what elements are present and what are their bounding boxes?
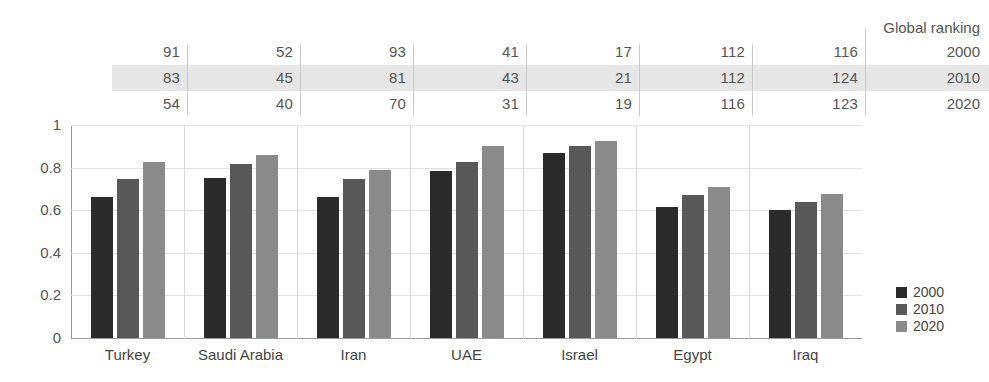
rank-cell: 40 <box>233 91 293 117</box>
legend-item: 2000 <box>896 283 986 300</box>
y-axis-tick-label: 0.8 <box>13 159 61 176</box>
bar <box>656 207 678 338</box>
legend-swatch-icon <box>896 321 907 332</box>
table-row-label: 2000 <box>870 39 980 65</box>
bar <box>317 197 339 338</box>
bar <box>369 170 391 338</box>
global-ranking-title: Global ranking <box>840 18 980 38</box>
rank-cell: 116 <box>798 39 858 65</box>
rank-cell: 52 <box>233 39 293 65</box>
group-divider <box>523 125 524 339</box>
bar <box>595 141 617 338</box>
bar-chart: 10.80.60.40.20 TurkeySaudi ArabiaIranUAE… <box>0 118 989 382</box>
rank-cell: 91 <box>120 39 180 65</box>
bar <box>256 155 278 338</box>
rank-cell: 93 <box>346 39 406 65</box>
group-divider <box>749 125 750 339</box>
rank-cell: 54 <box>120 91 180 117</box>
bar <box>117 179 139 338</box>
bar <box>795 202 817 338</box>
rank-cell: 31 <box>459 91 519 117</box>
group-divider <box>410 125 411 339</box>
x-axis-category-label: Saudi Arabia <box>184 346 297 363</box>
bar <box>482 146 504 338</box>
y-axis-tick-label: 1 <box>13 116 61 133</box>
global-ranking-table: Global ranking 91 52 93 41 17 112 116 20… <box>0 14 989 114</box>
x-axis-category-label: Iran <box>297 346 410 363</box>
bar <box>682 195 704 338</box>
bar <box>230 164 252 338</box>
y-axis-tick-label: 0.2 <box>13 286 61 303</box>
bar <box>143 162 165 338</box>
table-row: 91 52 93 41 17 112 116 2000 <box>0 39 989 65</box>
legend-label: 2020 <box>913 318 944 335</box>
x-axis-category-label: Iraq <box>749 346 862 363</box>
y-axis-tick-label: 0 <box>13 329 61 346</box>
bar <box>769 210 791 338</box>
rank-cell: 17 <box>572 39 632 65</box>
bar <box>456 162 478 338</box>
rank-cell: 123 <box>798 91 858 117</box>
x-axis-category-label: UAE <box>410 346 523 363</box>
rank-cell: 112 <box>685 39 745 65</box>
legend-label: 2000 <box>913 284 944 301</box>
legend-label: 2010 <box>913 301 944 318</box>
legend-swatch-icon <box>896 304 907 315</box>
rank-cell: 70 <box>346 91 406 117</box>
legend-item: 2010 <box>896 300 986 317</box>
bar <box>430 171 452 338</box>
gridline <box>71 125 862 126</box>
rank-cell: 43 <box>459 65 519 91</box>
bar <box>343 179 365 338</box>
bar <box>91 197 113 338</box>
x-axis-category-label: Egypt <box>636 346 749 363</box>
legend-item: 2020 <box>896 317 986 334</box>
rank-cell: 45 <box>233 65 293 91</box>
rank-cell: 83 <box>120 65 180 91</box>
group-divider <box>636 125 637 339</box>
x-axis-category-label: Israel <box>523 346 636 363</box>
chart-legend: 200020102020 <box>896 283 986 334</box>
plot-area <box>71 125 862 338</box>
rank-cell: 112 <box>685 65 745 91</box>
rank-cell: 21 <box>572 65 632 91</box>
group-divider <box>184 125 185 339</box>
x-axis-category-label: Turkey <box>71 346 184 363</box>
bar <box>543 153 565 338</box>
rank-cell: 81 <box>346 65 406 91</box>
bar <box>204 178 226 338</box>
table-row: 54 40 70 31 19 116 123 2020 <box>0 91 989 117</box>
y-axis-tick-label: 0.4 <box>13 244 61 261</box>
rank-cell: 124 <box>798 65 858 91</box>
figure-container: Global ranking 91 52 93 41 17 112 116 20… <box>0 0 989 382</box>
table-row-label: 2020 <box>870 91 980 117</box>
bar <box>821 194 843 338</box>
bar <box>569 146 591 338</box>
table-row-label: 2010 <box>870 65 980 91</box>
rank-cell: 41 <box>459 39 519 65</box>
y-axis-tick-label: 0.6 <box>13 201 61 218</box>
bar <box>708 187 730 338</box>
rank-cell: 19 <box>572 91 632 117</box>
legend-swatch-icon <box>896 287 907 298</box>
group-divider <box>297 125 298 339</box>
x-axis-line <box>71 338 862 339</box>
rank-cell: 116 <box>685 91 745 117</box>
table-row: 83 45 81 43 21 112 124 2010 <box>0 65 989 91</box>
